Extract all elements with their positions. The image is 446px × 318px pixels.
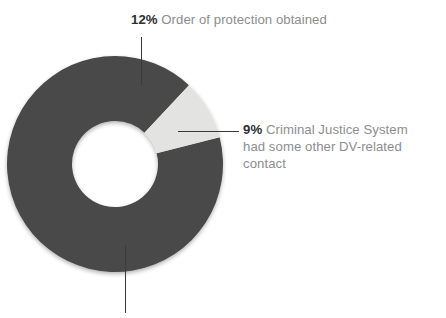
callout-description-order-of-protection: Order of protection obtained: [161, 12, 327, 27]
callout-percent-order-of-protection: 12%: [131, 12, 158, 27]
callout-criminal-justice: 9% Criminal Justice System had some othe…: [243, 121, 433, 172]
leader-line-order-of-protection: [141, 37, 142, 85]
donut-ring-group: [7, 56, 223, 272]
callout-order-of-protection: 12% Order of protection obtained: [131, 11, 327, 28]
leader-line-remainder: [125, 245, 126, 313]
chart-canvas: 12% Order of protection obtained 9% Crim…: [0, 0, 446, 318]
callout-percent-criminal-justice: 9%: [243, 122, 262, 137]
leader-line-criminal-justice: [178, 131, 239, 132]
callout-description-criminal-justice: Criminal Justice System had some other D…: [243, 122, 408, 171]
